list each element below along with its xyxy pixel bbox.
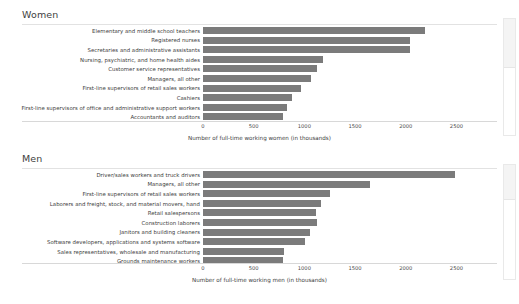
bar-rows-men: Driver/sales workers and truck driversMa… <box>0 170 519 266</box>
bar-category-label: First-line supervisors of office and adm… <box>0 105 203 111</box>
chart-page: Women Elementary and middle school teach… <box>0 0 519 304</box>
scrollbar-thumb-women[interactable] <box>504 19 515 68</box>
panel-title-men: Men <box>22 153 43 164</box>
bar-category-label: Retail salespersons <box>0 210 203 216</box>
bar-track <box>203 64 519 74</box>
x-axis-title-men: Number of full-time working men (in thou… <box>0 277 519 283</box>
bar-track <box>203 74 519 84</box>
chart-women: Elementary and middle school teachersReg… <box>0 26 519 141</box>
x-tick-label: 0 <box>201 123 204 130</box>
bar-row: Managers, all other <box>0 74 519 84</box>
x-tick-label: 1500 <box>348 265 361 272</box>
scrollbar-men[interactable] <box>503 164 516 280</box>
panel-divider-women <box>22 24 497 25</box>
bar-rows-women: Elementary and middle school teachersReg… <box>0 26 519 122</box>
bar-category-label: Secretaries and administrative assistant… <box>0 47 203 53</box>
bar-row: Nursing, psychiatric, and home health ai… <box>0 55 519 65</box>
bar-category-label: Driver/sales workers and truck drivers <box>0 172 203 178</box>
bar-row: Laborers and freight, stock, and materia… <box>0 199 519 209</box>
bar-category-label: Sales representatives, wholesale and man… <box>0 249 203 255</box>
bar-track <box>203 228 519 238</box>
bar <box>203 85 301 92</box>
x-axis-ticks-women: 05001000150020002500 <box>0 122 519 134</box>
bar <box>203 238 305 245</box>
bar <box>203 75 311 82</box>
x-tick-label: 1000 <box>298 265 311 272</box>
bar <box>203 200 321 207</box>
x-axis-ticks-men: 05001000150020002500 <box>0 264 519 276</box>
plot-area-women: Elementary and middle school teachersReg… <box>0 26 519 122</box>
bar <box>203 171 455 178</box>
bar-row: Cashiers <box>0 93 519 103</box>
bar-category-label: Managers, all other <box>0 76 203 82</box>
bar-row: Secretaries and administrative assistant… <box>0 45 519 55</box>
bar-track <box>203 103 519 113</box>
panel-divider-men <box>22 168 497 169</box>
bar <box>203 27 425 34</box>
bar <box>203 104 287 111</box>
x-tick-label: 0 <box>201 265 204 272</box>
x-tick-label: 2000 <box>399 123 412 130</box>
bar-row: Construction laborers <box>0 218 519 228</box>
bar-category-label: Laborers and freight, stock, and materia… <box>0 201 203 207</box>
bar <box>203 209 316 216</box>
bar-track <box>203 237 519 247</box>
bar-row: First-line supervisors of retail sales w… <box>0 84 519 94</box>
bar-track <box>203 218 519 228</box>
bar <box>203 113 283 120</box>
bar-category-label: Managers, all other <box>0 181 203 187</box>
bar-row: Sales representatives, wholesale and man… <box>0 247 519 257</box>
scrollbar-thumb-men[interactable] <box>504 165 515 200</box>
bar <box>203 190 330 197</box>
x-tick-label: 1000 <box>298 123 311 130</box>
x-tick-label: 2500 <box>450 265 463 272</box>
bar-track <box>203 45 519 55</box>
bar-category-label: Software developers, applications and sy… <box>0 239 203 245</box>
x-tick-label: 2000 <box>399 265 412 272</box>
bar-row: Retail salespersons <box>0 208 519 218</box>
bar-category-label: Customer service representatives <box>0 66 203 72</box>
x-tick-label: 1500 <box>348 123 361 130</box>
chart-men: Driver/sales workers and truck driversMa… <box>0 170 519 283</box>
bar-track <box>203 189 519 199</box>
bar-track <box>203 199 519 209</box>
bar-row: Driver/sales workers and truck drivers <box>0 170 519 180</box>
bar-category-label: Registered nurses <box>0 37 203 43</box>
panel-men: Men Driver/sales workers and truck drive… <box>0 145 519 304</box>
panel-title-women: Women <box>22 9 59 20</box>
bar <box>203 248 284 255</box>
x-tick-label: 500 <box>249 123 259 130</box>
bar-category-label: Accountants and auditors <box>0 114 203 120</box>
bar <box>203 65 317 72</box>
scrollbar-women[interactable] <box>503 18 516 136</box>
bar-category-label: Elementary and middle school teachers <box>0 28 203 34</box>
bar-category-label: First-line supervisors of retail sales w… <box>0 85 203 91</box>
x-tick-label: 2500 <box>450 123 463 130</box>
bar <box>203 219 317 226</box>
bar-track <box>203 180 519 190</box>
bar-row: First-line supervisors of retail sales w… <box>0 189 519 199</box>
bar-row: Managers, all other <box>0 180 519 190</box>
bar-track <box>203 55 519 65</box>
bar-category-label: Cashiers <box>0 95 203 101</box>
bar-row: Janitors and building cleaners <box>0 228 519 238</box>
bar <box>203 37 410 44</box>
plot-area-men: Driver/sales workers and truck driversMa… <box>0 170 519 264</box>
bar-category-label: Construction laborers <box>0 220 203 226</box>
bar-row: First-line supervisors of office and adm… <box>0 103 519 113</box>
bar-track <box>203 93 519 103</box>
bar-row: Software developers, applications and sy… <box>0 237 519 247</box>
x-tick-label: 500 <box>249 265 259 272</box>
bar-category-label: Janitors and building cleaners <box>0 229 203 235</box>
x-axis-title-women: Number of full-time working women (in th… <box>0 135 519 141</box>
bar-track <box>203 208 519 218</box>
bar-row: Customer service representatives <box>0 64 519 74</box>
bar-track <box>203 247 519 257</box>
bar-row: Registered nurses <box>0 36 519 46</box>
bar-track <box>203 26 519 36</box>
bar <box>203 181 370 188</box>
bar <box>203 56 323 63</box>
bar-row: Elementary and middle school teachers <box>0 26 519 36</box>
bar-track <box>203 170 519 180</box>
bar-track <box>203 84 519 94</box>
